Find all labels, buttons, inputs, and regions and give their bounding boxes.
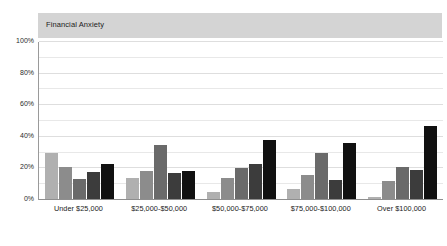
bar — [168, 173, 181, 200]
bar — [59, 167, 72, 200]
bar — [140, 171, 153, 200]
bar — [87, 172, 100, 200]
x-tick-label: Over $100,000 — [361, 204, 442, 213]
bar — [73, 179, 86, 200]
bar-group — [368, 42, 437, 200]
y-tick-label: 100% — [4, 37, 34, 44]
chart-title-band: Financial Anxiety — [38, 13, 442, 38]
x-tick-label: $50,000-$75,000 — [200, 204, 281, 213]
plot-area — [38, 42, 443, 200]
financial-anxiety-bar-chart: Financial Anxiety 0%20%40%60%80%100% Und… — [0, 0, 447, 246]
y-tick-label: 40% — [4, 132, 34, 139]
bar — [249, 164, 262, 200]
x-tick-label: Under $25,000 — [38, 204, 119, 213]
bar — [154, 145, 167, 200]
bar — [410, 170, 423, 200]
y-tick-label: 20% — [4, 163, 34, 170]
x-tick-label: $75,000-$100,000 — [280, 204, 361, 213]
bar — [301, 175, 314, 200]
bar-group — [126, 42, 195, 200]
x-axis-baseline — [39, 199, 443, 200]
bar — [343, 143, 356, 200]
bar — [182, 171, 195, 200]
bar — [235, 168, 248, 200]
x-axis: Under $25,000$25,000-$50,000$50,000-$75,… — [38, 204, 442, 224]
x-tick-label: $25,000-$50,000 — [119, 204, 200, 213]
bar-group — [45, 42, 114, 200]
chart-title: Financial Anxiety — [46, 20, 104, 29]
bar — [396, 167, 409, 200]
bar-group — [287, 42, 356, 200]
bar — [315, 153, 328, 200]
bar — [221, 178, 234, 200]
y-axis: 0%20%40%60%80%100% — [0, 42, 34, 200]
bar — [329, 180, 342, 200]
bar — [45, 153, 58, 200]
y-tick-label: 80% — [4, 69, 34, 76]
bar — [382, 181, 395, 200]
bar — [263, 140, 276, 200]
bar-group — [207, 42, 276, 200]
bar — [101, 164, 114, 200]
y-tick-label: 0% — [4, 195, 34, 202]
bar — [424, 126, 437, 200]
bar — [126, 178, 139, 200]
y-tick-label: 60% — [4, 100, 34, 107]
